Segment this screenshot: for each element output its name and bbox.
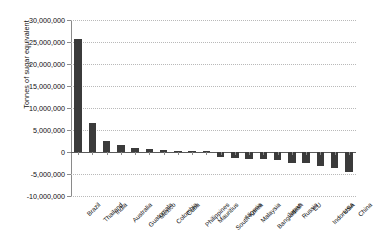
- gridline: [71, 174, 356, 175]
- x-axis-tick: [178, 152, 179, 155]
- y-axis-tick-label: -5,000,000: [31, 170, 65, 179]
- y-axis-tick-label: 5,000,000: [33, 126, 65, 135]
- x-axis-tick: [135, 152, 136, 155]
- x-axis-tick: [263, 152, 264, 155]
- gridline: [71, 130, 356, 131]
- bar: [89, 123, 96, 152]
- x-axis-tick-label: Cuba: [185, 201, 201, 217]
- x-axis-tick: [164, 152, 165, 155]
- bar: [74, 39, 81, 152]
- y-axis-tick: [67, 196, 71, 197]
- x-axis-tick: [349, 152, 350, 155]
- x-axis-tick: [249, 152, 250, 155]
- y-axis-tick: [67, 152, 71, 153]
- x-axis-tick: [192, 152, 193, 155]
- x-axis-tick: [221, 152, 222, 155]
- y-axis-tick: [67, 108, 71, 109]
- y-axis-tick: [67, 42, 71, 43]
- y-axis-tick: [67, 20, 71, 21]
- x-axis-tick: [235, 152, 236, 155]
- x-axis-tick: [78, 152, 79, 155]
- gridline: [71, 64, 356, 65]
- figure-caption: [6, 226, 346, 240]
- gridline: [71, 196, 356, 197]
- gridline: [71, 86, 356, 87]
- y-axis-tick-label: 25,000,000: [29, 38, 65, 47]
- bar: [103, 141, 110, 152]
- x-axis-tick: [335, 152, 336, 155]
- x-axis-tick: [278, 152, 279, 155]
- x-axis-tick: [320, 152, 321, 155]
- y-axis-tick-label: 20,000,000: [29, 60, 65, 69]
- bar: [117, 145, 124, 152]
- y-axis-tick-label: 0: [61, 148, 65, 157]
- y-axis-tick: [67, 130, 71, 131]
- y-axis-tick-label: 30,000,000: [29, 16, 65, 25]
- y-axis-tick: [67, 64, 71, 65]
- y-axis-tick: [67, 174, 71, 175]
- gridline: [71, 20, 356, 21]
- x-axis-tick: [292, 152, 293, 155]
- x-axis-tick: [121, 152, 122, 155]
- plot-area: 30,000,00025,000,00020,000,00015,000,000…: [71, 20, 356, 196]
- zero-line: [71, 152, 356, 153]
- x-axis-tick-label: Brazil: [85, 201, 101, 217]
- gridline: [71, 108, 356, 109]
- x-axis-tick: [92, 152, 93, 155]
- x-axis-tick: [206, 152, 207, 155]
- x-axis-tick-label: Mexico: [158, 201, 177, 220]
- x-axis-tick: [149, 152, 150, 155]
- y-axis-tick-label: -10,000,000: [27, 192, 65, 201]
- x-axis-tick: [306, 152, 307, 155]
- y-axis-tick-label: 15,000,000: [29, 82, 65, 91]
- gridline: [71, 42, 356, 43]
- y-axis-tick: [67, 86, 71, 87]
- x-axis-tick-label: China: [356, 201, 373, 218]
- x-axis-tick: [107, 152, 108, 155]
- y-axis-tick-label: 10,000,000: [29, 104, 65, 113]
